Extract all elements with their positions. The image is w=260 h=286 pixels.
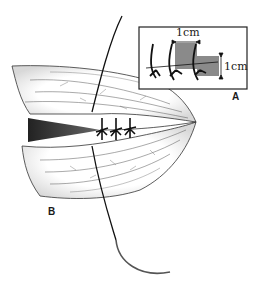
panel-label-a: A	[232, 91, 239, 102]
illustration-canvas	[0, 0, 260, 286]
panel-label-b: B	[48, 206, 55, 217]
interrupted-sutures	[96, 118, 136, 140]
measure-vertical-label: 1cm	[224, 60, 248, 73]
suture-illustration: 1cm 1cm A B	[0, 0, 260, 286]
measure-horizontal-label: 1cm	[176, 26, 200, 39]
